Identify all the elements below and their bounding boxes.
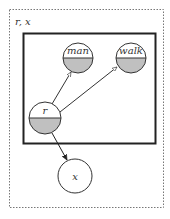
node-walk: walk (116, 43, 146, 73)
node-r: r (29, 102, 61, 134)
edge-r-to-man (52, 72, 71, 104)
edge-r-to-x (52, 133, 67, 160)
edges (52, 67, 117, 160)
node-man: man (63, 43, 93, 73)
node-x-label: x (72, 171, 78, 182)
plate-diagram: r, x man walk r x (0, 0, 170, 219)
edge-r-to-walk (60, 67, 117, 112)
outer-plate-label: r, x (15, 16, 31, 27)
node-x: x (58, 159, 92, 193)
node-man-label: man (67, 45, 89, 56)
node-walk-label: walk (119, 45, 143, 56)
